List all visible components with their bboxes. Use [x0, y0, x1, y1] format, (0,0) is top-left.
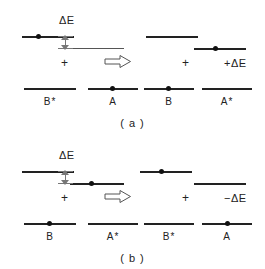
panel-b-label-reactant-left: B — [24, 231, 76, 242]
panel-a-implies-icon — [104, 54, 132, 69]
panel-a-product-left-upper-level — [146, 36, 198, 38]
panel-a-label-reactant-left: B* — [24, 96, 76, 107]
panel-a-product-right-electron — [213, 46, 218, 51]
panel-a-label-product-left: B — [144, 96, 194, 107]
panel-b-product-right-electron — [225, 221, 230, 226]
panel-a-product-right-upper-level — [194, 48, 246, 50]
panel-b: ΔE + + −ΔE B A* B* A ( b ) — [0, 135, 265, 269]
panel-b-reactant-right-electron — [89, 181, 94, 186]
panel-a-energy-term: +ΔE — [224, 57, 247, 69]
panel-b-product-left-lower-level — [144, 223, 194, 225]
panel-a-reactant-right-electron — [110, 86, 115, 91]
panel-b-energy-term: −ΔE — [224, 192, 247, 204]
panel-a-reactant-left-lower-level — [24, 88, 76, 90]
panel-a-delta-e-arrow — [61, 36, 70, 49]
panel-b-reactant-right-lower-level — [88, 223, 138, 225]
panel-a-plus-reactants: + — [61, 57, 68, 69]
panel-b-caption: ( b ) — [0, 252, 265, 264]
panel-a-product-right-lower-level — [202, 88, 252, 90]
panel-a-plus-products: + — [182, 57, 189, 69]
panel-b-implies-icon — [104, 189, 132, 204]
panel-a-reactant-right-upper-level — [70, 48, 124, 49]
panel-b-product-left-upper-level — [140, 171, 192, 173]
panel-b-product-right-upper-level — [194, 183, 246, 185]
panel-a-delta-e-label: ΔE — [59, 14, 75, 26]
panel-b-plus-products: + — [182, 192, 189, 204]
panel-a-caption: ( a ) — [0, 117, 265, 129]
panel-b-reactant-left-electron — [47, 221, 52, 226]
panel-b-reactant-right-upper-level — [70, 183, 124, 185]
panel-a-label-reactant-right: A — [88, 96, 138, 107]
panel-b-label-product-left: B* — [144, 231, 194, 242]
panel-b-plus-reactants: + — [61, 192, 68, 204]
panel-a-reactant-left-electron — [36, 34, 41, 39]
panel-b-label-product-right: A — [202, 231, 252, 242]
panel-b-product-left-electron — [159, 169, 164, 174]
panel-b-label-reactant-right: A* — [88, 231, 138, 242]
panel-a-product-left-electron — [166, 86, 171, 91]
panel-a: ΔE + + +ΔE B* A B A* ( a ) — [0, 0, 265, 134]
panel-a-label-product-right: A* — [202, 96, 252, 107]
panel-b-delta-e-label: ΔE — [59, 149, 75, 161]
panel-b-delta-e-arrow — [61, 171, 70, 184]
